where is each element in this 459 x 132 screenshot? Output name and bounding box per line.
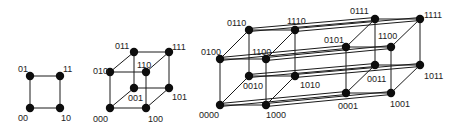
vertex-1111 — [416, 15, 424, 23]
vertex-101 — [165, 84, 173, 92]
vertex-1110 — [291, 26, 299, 34]
vertex-label: 1100 — [378, 31, 397, 41]
vertex-label: 0001 — [338, 101, 358, 111]
vertex-label: 11 — [63, 64, 72, 74]
vertex-label: 0111 — [350, 6, 369, 16]
vertex-label: 0011 — [367, 74, 386, 84]
vertex-00 — [26, 104, 34, 112]
hypercube-diagram: 0001101100000101001110010111011100000010… — [0, 0, 459, 132]
vertex-10 — [56, 104, 64, 112]
vertex-label: 01 — [18, 64, 28, 74]
vertex-100 — [142, 104, 150, 112]
vertex-label: 1000 — [266, 110, 286, 120]
vertex-011 — [130, 48, 138, 56]
vertex-label: 010 — [93, 66, 108, 76]
vertex-0000 — [216, 101, 224, 109]
edge-0100-0110 — [220, 30, 249, 59]
vertex-001 — [130, 84, 138, 92]
edge-010-011 — [110, 52, 134, 72]
vertex-label: 1001 — [390, 99, 410, 109]
vertex-label: 001 — [128, 93, 143, 103]
vertex-label: 0000 — [199, 110, 219, 120]
vertex-1000 — [262, 101, 270, 109]
vertex-label: 0100 — [201, 47, 221, 57]
vertex-label: 0101 — [324, 35, 344, 45]
vertex-1101 — [387, 43, 395, 51]
vertex-label: 00 — [18, 113, 28, 123]
vertex-1001 — [387, 89, 395, 97]
vertex-label: 000 — [93, 114, 108, 124]
vertex-label: 0010 — [243, 81, 263, 91]
vertex-label: 1100 — [252, 47, 271, 57]
vertex-label: 1010 — [300, 80, 320, 90]
vertex-label: 100 — [148, 114, 163, 124]
edge-100-101 — [146, 88, 169, 108]
vertex-label: 1111 — [424, 10, 442, 20]
vertex-label: 0110 — [227, 18, 246, 28]
edge-1001-1011 — [391, 65, 420, 93]
vertex-0010 — [245, 72, 253, 80]
vertex-1010 — [291, 72, 299, 80]
vertex-label: 110 — [137, 60, 151, 70]
edges — [30, 18, 420, 109]
vertex-label: 10 — [61, 113, 71, 123]
vertex-0001 — [342, 89, 350, 97]
vertex-label: 111 — [172, 42, 186, 52]
vertex-000 — [106, 104, 114, 112]
vertex-1011 — [416, 61, 424, 69]
vertex-label: 1011 — [424, 71, 443, 81]
vertex-0111 — [371, 15, 379, 23]
vertex-label: 1110 — [287, 16, 306, 26]
vertex-0011 — [371, 61, 379, 69]
vertex-label: 101 — [172, 92, 187, 102]
vertex-label: 011 — [115, 41, 129, 51]
